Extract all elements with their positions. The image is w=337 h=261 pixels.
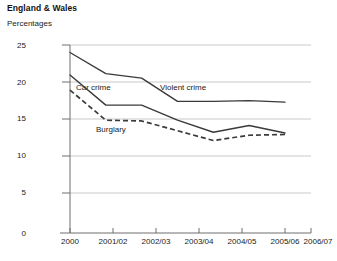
x-tick-marks — [70, 228, 311, 233]
gridlines — [70, 45, 311, 193]
axes — [60, 45, 311, 233]
series-lines — [70, 53, 285, 141]
series-line-burglary — [70, 90, 285, 140]
series-line-car-crime — [70, 75, 285, 133]
series-line-violent-crime — [70, 53, 285, 103]
